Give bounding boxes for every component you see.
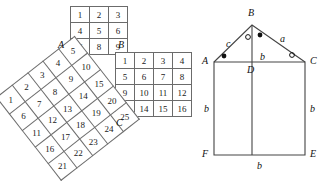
right-diagram: B A C D F E c a b b b b [164, 0, 328, 181]
grid-cell-value: 13 [63, 103, 72, 113]
geo-label-d: D [247, 64, 254, 75]
left-label-c: C [116, 117, 123, 128]
grid-cell: 1 [116, 53, 135, 69]
grid-cell: 6 [135, 69, 154, 85]
grid-row: 123 [71, 7, 128, 23]
grid-cell-value: 21 [58, 161, 67, 171]
grid-row: 456 [71, 23, 128, 39]
geo-side-label-bc: a [280, 33, 285, 44]
grid-cell-value: 1 [9, 95, 14, 105]
geo-label-b: B [248, 7, 254, 18]
grid-cell-value: 15 [95, 79, 104, 89]
geo-side-label-ce: b [310, 103, 315, 114]
grid-cell-value: 11 [32, 128, 41, 138]
grid-cell: 10 [135, 85, 154, 101]
left-label-b: B [118, 39, 124, 50]
grid-cell-value: 7 [37, 99, 42, 109]
geo-side-label-ac: b [260, 51, 265, 62]
geo-label-e: E [310, 148, 316, 159]
grid-cell-value: 24 [105, 124, 114, 134]
geo-label-c: C [310, 55, 317, 66]
geo-label-a: A [202, 55, 208, 66]
geo-side-label-fe: b [257, 160, 262, 171]
geometry-svg [164, 0, 328, 181]
grid-cell-value: 10 [82, 62, 91, 72]
grid-cell: 6 [109, 23, 128, 39]
geo-side-label-ab: c [226, 38, 230, 49]
rectangle-acef [214, 62, 305, 155]
grid-cell-value: 14 [79, 91, 88, 101]
left-label-a: A [58, 39, 64, 50]
geo-label-f: F [202, 148, 208, 159]
grid-cell-value: 12 [48, 116, 57, 126]
grid-cell: 2 [90, 7, 109, 23]
grid-cell: 3 [109, 7, 128, 23]
grid-cell-value: 17 [61, 132, 70, 142]
angle-mark-a-filled-dot [222, 54, 227, 59]
grid-cell-value: 22 [74, 149, 83, 159]
grid-cell-value: 16 [45, 144, 54, 154]
grid-cell: 2 [135, 53, 154, 69]
grid-cell: 1 [71, 7, 90, 23]
grid-cell: 8 [90, 39, 109, 55]
grid-cell-value: 3 [40, 70, 45, 80]
grid-cell-value: 9 [68, 75, 73, 85]
grid-cell-value: 20 [107, 96, 116, 106]
grid-cell-value: 23 [89, 136, 98, 146]
angle-mark-abd-open-circle [246, 35, 251, 40]
grid-cell: 5 [116, 69, 135, 85]
grid-cell-value: 6 [21, 111, 26, 121]
grid-cell-value: 5 [71, 46, 76, 56]
grid-cell-value: 19 [92, 108, 101, 118]
grid-cell: 5 [90, 23, 109, 39]
grid-cell-value: 4 [55, 58, 60, 68]
geo-side-label-af: b [204, 103, 209, 114]
grid-cell: 14 [135, 101, 154, 117]
figure-canvas: 123456789 12345678910111213141516 123456… [0, 0, 328, 181]
grid-cell-value: 18 [76, 120, 85, 130]
grid-cell-value: 2 [24, 82, 29, 92]
grid-cell-value: 8 [53, 87, 58, 97]
angle-mark-dbc-filled-dot [258, 33, 263, 38]
